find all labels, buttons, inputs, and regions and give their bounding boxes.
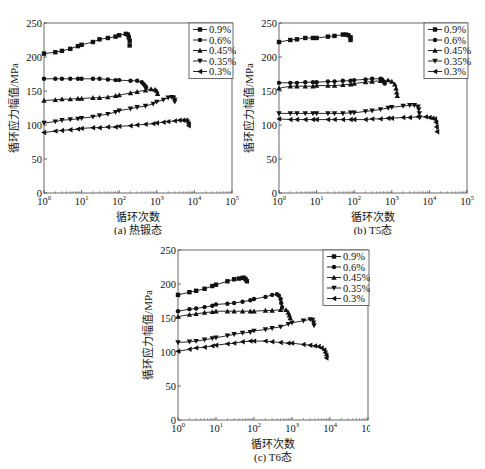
y-axis-label: 循环应力幅值/MPa bbox=[141, 290, 154, 380]
x-axis-label: 循环次数 bbox=[251, 437, 295, 450]
panel-a: 050100150200250100101102103104105循环次数(a)… bbox=[0, 0, 245, 235]
triangle-left-marker-icon bbox=[325, 117, 330, 122]
chart-c: 050100150200250100101102103104105循环次数(c)… bbox=[120, 234, 370, 469]
x-tick-label: 104 bbox=[423, 194, 438, 207]
x-tick-label: 103 bbox=[385, 194, 399, 207]
triangle-left-marker-icon bbox=[202, 345, 207, 350]
legend-label: 0.45% bbox=[444, 45, 471, 56]
circle-marker-icon bbox=[117, 78, 121, 82]
legend-label: 0.3% bbox=[343, 293, 365, 304]
y-tick-label: 150 bbox=[160, 313, 176, 324]
legend-label: 0.45% bbox=[343, 272, 370, 283]
triangle-left-marker-icon bbox=[423, 114, 428, 119]
series-0_9pct bbox=[176, 276, 249, 297]
triangle-left-marker-icon bbox=[53, 128, 58, 133]
y-tick-label: 50 bbox=[166, 381, 177, 392]
circle-marker-icon bbox=[194, 306, 198, 310]
x-axis-label: 循环次数 bbox=[351, 210, 395, 223]
series-0_6pct bbox=[277, 77, 387, 86]
triangle-left-marker-icon bbox=[143, 122, 148, 127]
x-tick-label: 105 bbox=[225, 194, 239, 207]
triangle-left-marker-icon bbox=[378, 116, 383, 121]
triangle-left-marker-icon bbox=[59, 128, 64, 133]
circle-marker-icon bbox=[214, 302, 218, 306]
legend-label: 0.6% bbox=[209, 35, 231, 46]
square-marker-icon bbox=[348, 38, 352, 42]
x-tick-label: 104 bbox=[323, 421, 338, 434]
triangle-left-marker-icon bbox=[407, 115, 412, 120]
triangle-left-marker-icon bbox=[113, 124, 118, 129]
chart-a: 050100150200250100101102103104105循环次数(a)… bbox=[0, 0, 245, 235]
circle-marker-icon bbox=[240, 299, 244, 303]
triangle-left-marker-icon bbox=[301, 342, 306, 347]
x-tick-label: 101 bbox=[75, 194, 89, 207]
square-marker-icon bbox=[91, 40, 95, 44]
x-tick-label: 102 bbox=[247, 421, 261, 434]
circle-marker-icon bbox=[68, 77, 72, 81]
circle-marker-icon bbox=[187, 307, 191, 311]
x-tick-label: 100 bbox=[272, 194, 286, 207]
triangle-left-marker-icon bbox=[172, 118, 177, 123]
x-tick-label: 103 bbox=[150, 194, 164, 207]
circle-marker-icon bbox=[263, 295, 267, 299]
circle-marker-icon bbox=[270, 293, 274, 297]
triangle-left-marker-icon bbox=[288, 117, 293, 122]
triangle-left-marker-icon bbox=[303, 117, 308, 122]
legend-label: 0.9% bbox=[343, 251, 365, 262]
square-marker-icon bbox=[127, 43, 131, 47]
square-marker-icon bbox=[295, 37, 299, 41]
square-marker-icon bbox=[277, 40, 281, 44]
circle-marker-icon bbox=[332, 265, 336, 269]
y-tick-label: 100 bbox=[26, 120, 42, 131]
x-tick-label: 100 bbox=[171, 421, 185, 434]
square-marker-icon bbox=[198, 27, 202, 31]
circle-marker-icon bbox=[79, 77, 83, 81]
triangle-left-marker-icon bbox=[90, 125, 95, 130]
x-tick-label: 100 bbox=[37, 194, 51, 207]
legend-label: 0.45% bbox=[209, 45, 236, 56]
square-marker-icon bbox=[326, 34, 330, 38]
circle-marker-icon bbox=[176, 309, 180, 313]
y-tick-label: 250 bbox=[261, 18, 277, 29]
x-tick-label: 101 bbox=[310, 194, 324, 207]
square-marker-icon bbox=[232, 277, 236, 281]
chart-title: (c) T6态 bbox=[254, 451, 292, 464]
triangle-left-marker-icon bbox=[278, 340, 283, 345]
square-marker-icon bbox=[187, 290, 191, 294]
triangle-left-marker-icon bbox=[340, 117, 345, 122]
series-0_3pct bbox=[276, 114, 439, 134]
series-0_6pct bbox=[42, 77, 149, 90]
circle-marker-icon bbox=[279, 301, 283, 305]
legend-label: 0.35% bbox=[343, 283, 370, 294]
y-axis-label: 循环应力幅值/MPa bbox=[242, 63, 255, 153]
circle-marker-icon bbox=[97, 77, 101, 81]
legend-label: 0.6% bbox=[444, 35, 466, 46]
square-marker-icon bbox=[79, 43, 83, 47]
legend: 0.9%0.6%0.45%0.35%0.3% bbox=[424, 23, 471, 79]
square-marker-icon bbox=[106, 36, 110, 40]
x-tick-label: 101 bbox=[209, 421, 223, 434]
circle-marker-icon bbox=[91, 77, 95, 81]
legend-label: 0.9% bbox=[444, 24, 466, 35]
triangle-left-marker-icon bbox=[128, 123, 133, 128]
circle-marker-icon bbox=[232, 301, 236, 305]
y-tick-label: 200 bbox=[160, 279, 176, 290]
square-marker-icon bbox=[332, 254, 336, 258]
panel-c: 050100150200250100101102103104105循环次数(c)… bbox=[120, 234, 370, 469]
circle-marker-icon bbox=[42, 77, 46, 81]
square-marker-icon bbox=[176, 293, 180, 297]
square-marker-icon bbox=[53, 50, 57, 54]
square-marker-icon bbox=[127, 38, 131, 42]
triangle-left-marker-icon bbox=[363, 117, 368, 122]
x-tick-label: 105 bbox=[460, 194, 474, 207]
circle-marker-icon bbox=[198, 38, 202, 42]
x-axis-label: 循环次数 bbox=[116, 210, 160, 223]
circle-marker-icon bbox=[128, 79, 132, 83]
series-0_45pct bbox=[276, 77, 400, 98]
square-marker-icon bbox=[332, 34, 336, 38]
square-marker-icon bbox=[214, 282, 218, 286]
square-marker-icon bbox=[68, 47, 72, 51]
legend-label: 0.3% bbox=[209, 66, 231, 77]
square-marker-icon bbox=[288, 38, 292, 42]
triangle-left-marker-icon bbox=[210, 343, 215, 348]
